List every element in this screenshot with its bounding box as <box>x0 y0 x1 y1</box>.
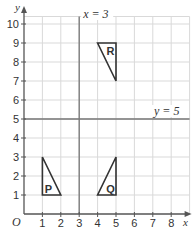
y-tick-label: 5 <box>13 113 19 125</box>
x-tick-label: 4 <box>95 217 101 229</box>
mirror-line-x-3-label: x = 3 <box>82 7 108 21</box>
y-axis-arrow-icon <box>21 6 27 13</box>
y-tick-label: 6 <box>13 94 19 106</box>
triangle-r-label: R <box>107 45 115 57</box>
x-tick-label: 5 <box>113 217 119 229</box>
x-tick-label: 8 <box>168 217 174 229</box>
y-tick-label: 4 <box>13 132 19 144</box>
y-tick-label: 9 <box>13 37 19 49</box>
y-tick-label: 2 <box>13 170 19 182</box>
triangle-q-label: Q <box>106 183 115 195</box>
x-tick-label: 6 <box>131 217 137 229</box>
origin-label: O <box>12 215 21 229</box>
x-tick-label: 1 <box>39 217 45 229</box>
axis-ticks: 1234567812345678910 <box>7 18 175 229</box>
x-tick-label: 3 <box>76 217 82 229</box>
y-tick-label: 10 <box>7 18 19 30</box>
mirror-line-y-5-label: y = 5 <box>153 104 179 118</box>
coordinate-grid-diagram: 1234567812345678910 x y O x = 3 y = 5 PQ… <box>0 0 192 229</box>
triangle-p-label: P <box>45 183 52 195</box>
x-tick-label: 2 <box>58 217 64 229</box>
y-tick-label: 8 <box>13 56 19 68</box>
y-axis-label: y <box>14 1 20 13</box>
x-tick-label: 7 <box>150 217 156 229</box>
y-tick-label: 7 <box>13 75 19 87</box>
coordinate-plane: 1234567812345678910 x y O x = 3 y = 5 PQ… <box>0 0 192 229</box>
x-axis-label: x <box>182 216 188 228</box>
y-tick-label: 1 <box>13 189 19 201</box>
y-tick-label: 3 <box>13 151 19 163</box>
